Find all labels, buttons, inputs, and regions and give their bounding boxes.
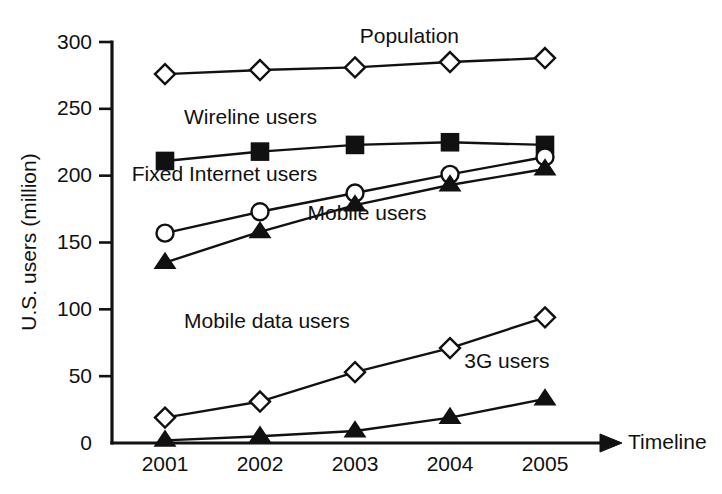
data-point-square (252, 143, 269, 160)
data-point-circle (157, 225, 174, 242)
series-annotation: 3G users (464, 349, 549, 372)
series-annotation: Mobile users (308, 201, 427, 224)
y-tick-label: 150 (57, 230, 92, 253)
x-tick-group: 20012002200320042005 (142, 452, 569, 475)
y-tick-label: 250 (57, 96, 92, 119)
y-axis-title: U.S. users (million) (17, 153, 40, 330)
data-point-triangle (535, 390, 555, 405)
data-point-triangle (155, 431, 175, 446)
data-point-diamond (535, 307, 555, 327)
y-tick-label: 50 (69, 364, 92, 387)
annotation-group: PopulationWireline usersFixed Internet u… (132, 24, 550, 372)
data-point-diamond (535, 48, 555, 68)
y-tick-label: 0 (80, 431, 92, 454)
data-point-square (347, 136, 364, 153)
data-point-diamond (440, 338, 460, 358)
data-point-diamond (155, 408, 175, 428)
y-tick-label: 200 (57, 163, 92, 186)
chart-container: U.S. users (million)Timeline050100150200… (0, 0, 722, 494)
y-tick-label: 100 (57, 297, 92, 320)
x-tick-label: 2003 (332, 452, 379, 475)
data-point-diamond (250, 60, 270, 80)
data-point-circle (252, 203, 269, 220)
series-annotation: Wireline users (184, 105, 317, 128)
data-point-diamond (155, 64, 175, 84)
data-point-diamond (345, 57, 365, 77)
series-annotation: Fixed Internet users (132, 162, 318, 185)
series-annotation: Population (360, 24, 459, 47)
data-point-square (442, 134, 459, 151)
series-annotation: Mobile data users (184, 309, 350, 332)
y-tick-label: 300 (57, 30, 92, 53)
data-point-diamond (440, 52, 460, 72)
data-point-triangle (250, 427, 270, 442)
x-axis-arrowhead (600, 434, 622, 452)
x-tick-label: 2002 (237, 452, 284, 475)
line-chart: U.S. users (million)Timeline050100150200… (0, 0, 722, 494)
x-tick-label: 2001 (142, 452, 189, 475)
y-tick-group: 050100150200250300 (57, 30, 112, 454)
x-tick-label: 2004 (427, 452, 474, 475)
series-population (155, 48, 555, 84)
x-axis-title: Timeline (628, 430, 707, 453)
x-tick-label: 2005 (522, 452, 569, 475)
data-point-diamond (250, 392, 270, 412)
axes: U.S. users (million)Timeline (17, 42, 707, 453)
data-point-diamond (345, 362, 365, 382)
series-3g-users (155, 390, 555, 446)
